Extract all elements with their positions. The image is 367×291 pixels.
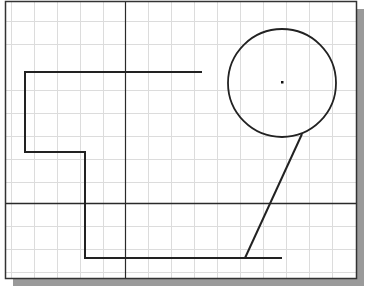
circle-center-point xyxy=(281,81,284,84)
frame-shadow-bottom xyxy=(13,279,364,286)
drawing-canvas[interactable] xyxy=(0,0,367,291)
frame-shadow-right xyxy=(357,9,364,286)
